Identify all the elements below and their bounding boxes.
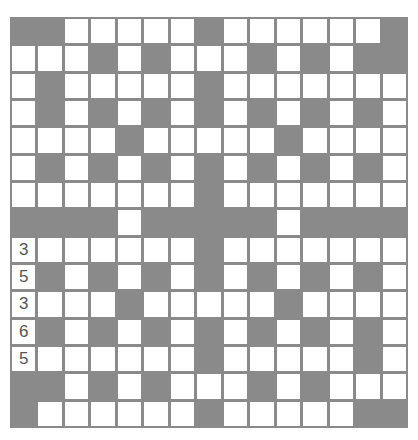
grid-cell[interactable] [383,101,406,125]
grid-cell[interactable] [277,402,300,426]
grid-cell[interactable] [356,183,379,207]
grid-cell[interactable] [38,128,61,152]
grid-cell[interactable] [91,402,114,426]
grid-cell[interactable] [65,128,88,152]
grid-cell[interactable] [356,128,379,152]
grid-cell[interactable] [12,101,35,125]
grid-cell[interactable] [65,19,88,43]
grid-cell[interactable] [330,19,353,43]
grid-cell[interactable] [171,402,194,426]
grid-cell[interactable] [224,183,247,207]
grid-cell[interactable] [65,101,88,125]
grid-cell[interactable] [277,46,300,70]
grid-cell[interactable] [91,183,114,207]
grid-cell[interactable] [303,128,326,152]
grid-cell[interactable] [118,374,141,398]
grid-cell[interactable] [356,374,379,398]
grid-cell[interactable] [144,19,167,43]
grid-cell[interactable] [224,402,247,426]
grid-cell[interactable] [383,74,406,98]
grid-cell[interactable] [118,46,141,70]
grid-cell[interactable] [356,19,379,43]
grid-cell[interactable] [383,156,406,180]
grid-cell[interactable]: 3 [12,292,35,316]
grid-cell[interactable] [118,156,141,180]
grid-cell[interactable] [171,265,194,289]
grid-cell[interactable] [277,101,300,125]
grid-cell[interactable] [118,238,141,262]
grid-cell[interactable] [12,128,35,152]
grid-cell[interactable] [144,347,167,371]
grid-cell[interactable]: 5 [12,265,35,289]
grid-cell[interactable] [330,238,353,262]
grid-cell[interactable] [277,74,300,98]
grid-cell[interactable] [303,183,326,207]
grid-cell[interactable] [277,265,300,289]
grid-cell[interactable] [330,374,353,398]
grid-cell[interactable] [330,265,353,289]
grid-cell[interactable] [171,292,194,316]
grid-cell[interactable] [65,46,88,70]
grid-cell[interactable] [303,402,326,426]
grid-cell[interactable] [383,238,406,262]
grid-cell[interactable] [65,74,88,98]
grid-cell[interactable] [277,320,300,344]
grid-cell[interactable] [38,347,61,371]
grid-cell[interactable] [171,19,194,43]
grid-cell[interactable] [330,101,353,125]
grid-cell[interactable] [12,46,35,70]
grid-cell[interactable] [38,292,61,316]
grid-cell[interactable] [330,156,353,180]
grid-cell[interactable] [91,74,114,98]
grid-cell[interactable] [118,74,141,98]
grid-cell[interactable] [277,183,300,207]
grid-cell[interactable] [224,74,247,98]
grid-cell[interactable] [250,347,273,371]
grid-cell[interactable] [144,402,167,426]
grid-cell[interactable] [144,183,167,207]
grid-cell[interactable] [330,320,353,344]
grid-cell[interactable] [144,128,167,152]
grid-cell[interactable] [197,292,220,316]
grid-cell[interactable] [277,19,300,43]
grid-cell[interactable] [118,347,141,371]
grid-cell[interactable] [303,238,326,262]
grid-cell[interactable]: 3 [12,238,35,262]
grid-cell[interactable] [330,128,353,152]
grid-cell[interactable] [330,402,353,426]
grid-cell[interactable] [65,238,88,262]
grid-cell[interactable] [224,19,247,43]
grid-cell[interactable] [171,156,194,180]
grid-cell[interactable] [250,292,273,316]
grid-cell[interactable] [12,183,35,207]
grid-cell[interactable] [91,128,114,152]
grid-cell[interactable] [12,156,35,180]
grid-cell[interactable] [65,347,88,371]
grid-cell[interactable] [250,128,273,152]
grid-cell[interactable] [65,402,88,426]
grid-cell[interactable]: 6 [12,320,35,344]
grid-cell[interactable] [330,74,353,98]
grid-cell[interactable] [250,74,273,98]
grid-cell[interactable] [197,374,220,398]
grid-cell[interactable] [250,238,273,262]
grid-cell[interactable] [38,183,61,207]
grid-cell[interactable] [91,19,114,43]
grid-cell[interactable] [65,156,88,180]
grid-cell[interactable] [383,320,406,344]
grid-cell[interactable] [250,19,273,43]
grid-cell[interactable] [224,128,247,152]
grid-cell[interactable] [224,265,247,289]
grid-cell[interactable] [356,238,379,262]
grid-cell[interactable] [118,265,141,289]
grid-cell[interactable] [303,74,326,98]
grid-cell[interactable] [277,347,300,371]
grid-cell[interactable] [330,347,353,371]
grid-cell[interactable] [303,347,326,371]
grid-cell[interactable] [12,74,35,98]
grid-cell[interactable] [171,374,194,398]
grid-cell[interactable] [224,46,247,70]
grid-cell[interactable] [224,238,247,262]
grid-cell[interactable] [250,183,273,207]
grid-cell[interactable] [38,402,61,426]
